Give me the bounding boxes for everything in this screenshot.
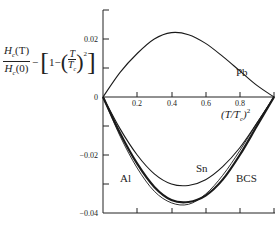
x-tick-label: 0.2 (132, 99, 142, 108)
curve-label-sn: Sn (196, 162, 208, 174)
y-tick-label: −0.04 (79, 209, 98, 218)
x-ticks-top (137, 92, 274, 97)
x-tick-label: 0.4 (167, 99, 177, 108)
y-tick-label: 0.02 (84, 35, 98, 44)
curve-label-al: Al (120, 172, 131, 184)
x-tick-label: 0.6 (201, 99, 211, 108)
x-axis-label: (T/Tc)2 (221, 107, 250, 123)
t-ratio: T Tc (68, 49, 76, 74)
hc-ratio: Hc(T) Hc(0) (3, 44, 30, 79)
curve-label-pb: Pb (236, 66, 248, 78)
curve-pb (103, 32, 274, 97)
curve-label-bcs: BCS (236, 172, 257, 184)
x-ticks-bottom (137, 208, 274, 213)
y-tick-label: −0.02 (79, 151, 98, 160)
y-tick-label: 0 (94, 93, 98, 102)
y-axis-label: Hc(T) Hc(0) − [ 1− ( T Tc )2 ] (3, 44, 96, 79)
